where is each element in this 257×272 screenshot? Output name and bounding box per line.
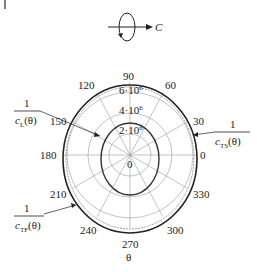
- svg-text:240: 240: [80, 224, 97, 236]
- svg-text:cL(θ): cL(θ): [15, 114, 37, 129]
- svg-text:0: 0: [200, 149, 206, 161]
- axis-c-label: C: [155, 21, 163, 33]
- svg-text:270: 270: [122, 238, 139, 250]
- svg-text:330: 330: [193, 188, 210, 200]
- svg-text:1: 1: [24, 202, 30, 214]
- svg-text:120: 120: [78, 79, 95, 91]
- svg-text:cTF(θ): cTF(θ): [15, 219, 41, 234]
- svg-text:6·106: 6·106: [119, 84, 143, 96]
- svg-text:180: 180: [40, 149, 57, 161]
- svg-text:1: 1: [230, 118, 236, 130]
- svg-text:2·106: 2·106: [119, 124, 143, 136]
- radial-labels: 0 2·106 4·106 6·106: [119, 84, 143, 170]
- polar-slowness-figure: C 0 30 60 90 120 150 180 210 240 270 300: [0, 0, 257, 272]
- label-1-over-cTF: 1 cTF(θ): [14, 202, 76, 234]
- svg-text:90: 90: [123, 70, 135, 82]
- svg-text:210: 210: [50, 188, 67, 200]
- angle-labels: 0 30 60 90 120 150 180 210 240 270 300 3…: [40, 70, 210, 250]
- rotation-axis-icon: C: [108, 13, 163, 41]
- svg-text:cTS(θ): cTS(θ): [215, 135, 241, 150]
- svg-text:30: 30: [193, 115, 205, 127]
- svg-text:60: 60: [165, 79, 177, 91]
- svg-text:1: 1: [24, 97, 30, 109]
- svg-text:0: 0: [127, 158, 133, 170]
- theta-axis-label: θ: [126, 251, 131, 263]
- svg-text:300: 300: [167, 224, 184, 236]
